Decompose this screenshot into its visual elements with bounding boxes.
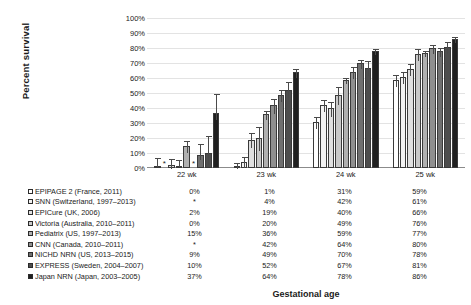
data-value-cell: 70% xyxy=(307,250,382,259)
data-value-cell: 80% xyxy=(382,240,457,249)
legend-swatch xyxy=(28,263,33,268)
bar-group xyxy=(386,18,466,168)
data-value-cell: 76% xyxy=(382,219,457,228)
y-tick-label: 0% xyxy=(113,164,145,173)
data-value-cell: 59% xyxy=(307,229,382,238)
bar-groups: ** xyxy=(147,18,465,168)
y-tick-label: 20% xyxy=(113,134,145,143)
bar xyxy=(197,155,204,169)
bar xyxy=(328,108,334,168)
x-tick-label: 24 wk xyxy=(306,170,386,182)
data-value-cell: * xyxy=(157,197,232,206)
data-value-cell: 66% xyxy=(382,208,457,217)
legend-label: Victoria (Australia, 2010–2011) xyxy=(35,219,157,228)
x-axis-tick-labels: 22 wk23 wk24 wk25 wk xyxy=(147,170,465,182)
legend-swatch xyxy=(28,199,33,204)
bar xyxy=(365,68,371,169)
data-value-cell: 9% xyxy=(157,250,232,259)
x-axis-title: Gestational age xyxy=(147,289,465,299)
bar xyxy=(168,165,175,168)
bar xyxy=(429,48,435,168)
data-value-cell: 42% xyxy=(232,240,307,249)
legend-swatch xyxy=(28,274,33,279)
bar xyxy=(293,72,299,168)
y-tick-label: 40% xyxy=(113,104,145,113)
plot-area: ** xyxy=(147,18,465,168)
bar xyxy=(343,80,349,169)
bar: * xyxy=(162,161,167,168)
bar xyxy=(313,122,319,169)
legend-row: SNN (Switzerland, 1997–2013)*4%42%61% xyxy=(28,197,465,208)
legend-swatch xyxy=(28,252,33,257)
legend-label: SNN (Switzerland, 1997–2013) xyxy=(35,197,157,206)
data-value-cell: 15% xyxy=(157,229,232,238)
bar xyxy=(452,39,458,168)
x-tick-label: 23 wk xyxy=(227,170,307,182)
bar xyxy=(422,53,428,169)
bar: * xyxy=(191,161,196,168)
bar xyxy=(320,105,326,168)
bar xyxy=(415,54,421,168)
missing-data-marker: * xyxy=(192,160,195,168)
legend-row: EXPRESS (Sweden, 2004–2007)10%52%67%81% xyxy=(28,260,465,271)
data-value-cell: 78% xyxy=(382,250,457,259)
bar-group: ** xyxy=(147,18,227,168)
bar-group xyxy=(227,18,307,168)
data-value-cell: 20% xyxy=(232,219,307,228)
bar xyxy=(437,51,443,168)
legend-table: EPIPAGE 2 (France, 2011)0%1%31%59%SNN (S… xyxy=(28,186,465,281)
bar xyxy=(263,114,269,168)
missing-data-marker: * xyxy=(163,160,166,168)
bar xyxy=(407,69,413,168)
bar xyxy=(213,113,220,169)
data-value-cell: 0% xyxy=(157,219,232,228)
bar xyxy=(270,105,276,168)
chart-figure: Percent survival 0%10%20%30%40%50%60%70%… xyxy=(0,0,471,305)
legend-row: EPICure (UK, 2006)2%19%40%66% xyxy=(28,207,465,218)
legend-row: Japan NRN (Japan, 2003–2005)37%64%78%86% xyxy=(28,271,465,282)
data-value-cell: 64% xyxy=(232,272,307,281)
bar xyxy=(256,138,262,168)
bar xyxy=(234,166,240,168)
data-value-cell: 81% xyxy=(382,261,457,270)
legend-label: NICHD NRN (US, 2013–2015) xyxy=(35,250,157,259)
y-tick-label: 80% xyxy=(113,44,145,53)
legend-label: EPICure (UK, 2006) xyxy=(35,208,157,217)
data-value-cell: 64% xyxy=(307,240,382,249)
bar xyxy=(205,153,212,168)
data-value-cell: 49% xyxy=(307,219,382,228)
data-value-cell: 52% xyxy=(232,261,307,270)
y-tick-label: 30% xyxy=(113,119,145,128)
x-tick-label: 22 wk xyxy=(147,170,227,182)
data-value-cell: 42% xyxy=(307,197,382,206)
y-tick-label: 100% xyxy=(113,14,145,23)
data-value-cell: 77% xyxy=(382,229,457,238)
legend-swatch xyxy=(28,221,33,226)
data-value-cell: 10% xyxy=(157,261,232,270)
x-tick-label: 25 wk xyxy=(386,170,466,182)
data-value-cell: * xyxy=(157,240,232,249)
legend-row: CNN (Canada, 2010–2011)*42%64%80% xyxy=(28,239,465,250)
y-tick-label: 70% xyxy=(113,59,145,68)
data-value-cell: 2% xyxy=(157,208,232,217)
bar-group xyxy=(306,18,386,168)
legend-label: EXPRESS (Sweden, 2004–2007) xyxy=(35,261,157,270)
data-value-cell: 61% xyxy=(382,197,457,206)
data-value-cell: 4% xyxy=(232,197,307,206)
data-value-cell: 40% xyxy=(307,208,382,217)
data-value-cell: 36% xyxy=(232,229,307,238)
bar xyxy=(241,162,247,168)
legend-row: Pediatrix (US, 1997–2013)15%36%59%77% xyxy=(28,228,465,239)
legend-swatch xyxy=(28,242,33,247)
legend-row: Victoria (Australia, 2010–2011)0%20%49%7… xyxy=(28,218,465,229)
legend-label: Japan NRN (Japan, 2003–2005) xyxy=(35,272,157,281)
bar xyxy=(285,90,291,168)
data-value-cell: 19% xyxy=(232,208,307,217)
bar xyxy=(357,63,363,168)
y-tick-label: 10% xyxy=(113,149,145,158)
bar xyxy=(278,95,284,169)
bar xyxy=(350,72,356,168)
data-value-cell: 78% xyxy=(307,272,382,281)
y-tick-label: 60% xyxy=(113,74,145,83)
y-tick-label: 50% xyxy=(113,89,145,98)
